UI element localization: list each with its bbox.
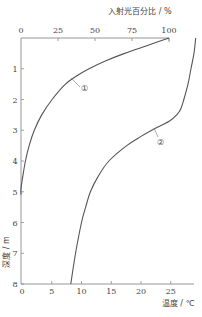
temperature-curve [71,38,196,284]
top-tick-label: 25 [53,26,63,35]
bottom-tick-label: 25 [166,287,176,296]
curve2-leader-line [154,128,158,137]
y-tick-label: 1 [12,65,17,74]
bottom-tick-label: 10 [76,287,86,296]
bottom-tick-label: 5 [49,287,54,296]
depth-light-temperature-chart: 入射光百分比 / % 0255075100 12345678 深度 / m 05… [0,0,202,317]
curve1-label: ① [81,84,88,93]
bottom-tick-label: 20 [136,287,146,296]
top-tick-label: 100 [161,26,176,35]
bottom-axis: 0510152025 [19,281,194,296]
bottom-tick-label: 0 [19,287,24,296]
top-tick-label: 50 [90,26,100,35]
y-axis-title: 深度 / m [1,236,11,268]
curve2-label: ② [157,138,164,147]
bottom-axis-title: 温度 / ℃ [162,298,195,308]
y-tick-label: 5 [12,188,17,197]
y-tick-label: 7 [12,249,17,258]
top-tick-label: 75 [127,26,137,35]
y-tick-label: 8 [12,280,17,289]
y-tick-label: 6 [12,219,17,228]
y-axis: 12345678 [12,38,24,289]
top-axis-title: 入射光百分比 / % [108,6,172,16]
curve1-leader-line [71,78,80,87]
y-tick-label: 2 [12,96,17,105]
bottom-tick-label: 15 [106,287,116,296]
y-tick-label: 3 [12,126,17,135]
y-tick-label: 4 [12,157,17,166]
light-percent-curve [21,38,169,195]
top-tick-label: 0 [18,26,23,35]
top-axis: 0255075100 [18,26,176,42]
